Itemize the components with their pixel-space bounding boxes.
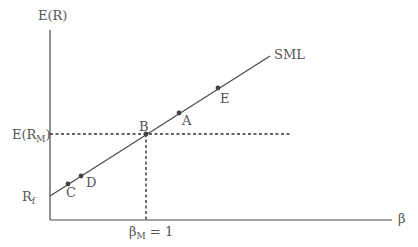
- point-c-label: C: [66, 185, 76, 200]
- point-a-label: A: [181, 113, 192, 128]
- market-return-label: E(RM): [12, 127, 51, 144]
- point-e-label: E: [220, 91, 230, 106]
- point-d: [79, 174, 84, 179]
- point-a: [177, 111, 182, 116]
- point-e: [216, 86, 221, 91]
- y-axis-label: E(R): [38, 8, 67, 23]
- market-beta-label: βM = 1: [129, 224, 173, 241]
- point-d-label: D: [86, 175, 96, 190]
- point-b-label: B: [139, 119, 149, 134]
- sml-label: SML: [274, 47, 305, 62]
- risk-free-label: Rf: [22, 189, 36, 206]
- x-axis-label: β: [398, 211, 406, 226]
- sml-diagram: A B C D E E(R) β SML E(RM) Rf βM = 1: [0, 0, 418, 247]
